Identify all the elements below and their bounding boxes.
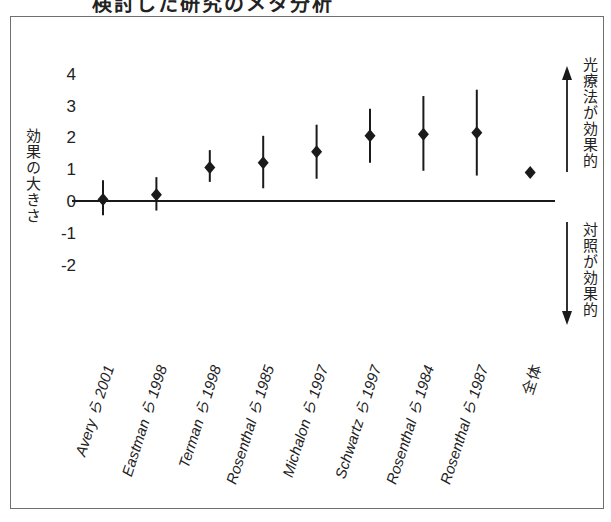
data-points	[98, 90, 536, 216]
diamond-marker-icon	[525, 166, 536, 179]
data-point	[151, 177, 162, 210]
data-point	[311, 125, 322, 179]
diamond-marker-icon	[471, 126, 482, 139]
data-point	[258, 136, 269, 188]
diamond-marker-icon	[365, 129, 376, 142]
down-arrow-icon	[562, 222, 572, 325]
up-arrow-icon	[562, 66, 572, 172]
data-point	[525, 166, 536, 179]
diamond-marker-icon	[151, 188, 162, 201]
diamond-marker-icon	[258, 156, 269, 169]
data-point	[204, 150, 215, 182]
data-point	[471, 90, 482, 176]
diamond-marker-icon	[418, 128, 429, 141]
annotation-control-effective: 対照が効果的	[581, 222, 596, 318]
data-point	[98, 180, 109, 215]
data-point	[365, 109, 376, 163]
diamond-marker-icon	[98, 193, 109, 206]
annotation-light-therapy-effective: 光療法が効果的	[581, 57, 596, 169]
diamond-marker-icon	[204, 161, 215, 174]
diamond-marker-icon	[311, 145, 322, 158]
data-point	[418, 96, 429, 171]
